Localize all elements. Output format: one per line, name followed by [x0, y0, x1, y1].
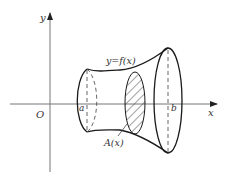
curve-label: y=f(x): [105, 55, 136, 66]
cross-section-area: [125, 72, 145, 134]
axes: [10, 13, 217, 172]
origin-label: O: [36, 109, 44, 120]
left-end-circle-front: [77, 69, 87, 132]
lower-profile-curve: [87, 130, 168, 153]
x-axis-label: x: [208, 107, 214, 118]
solid-of-revolution-diagram: y x O a b y=f(x) A(x): [0, 0, 235, 182]
a-label: a: [79, 103, 84, 113]
cross-section-label: A(x): [103, 137, 124, 148]
y-axis-label: y: [39, 12, 46, 23]
left-end-circle-back: [87, 69, 97, 132]
b-label: b: [171, 103, 177, 113]
